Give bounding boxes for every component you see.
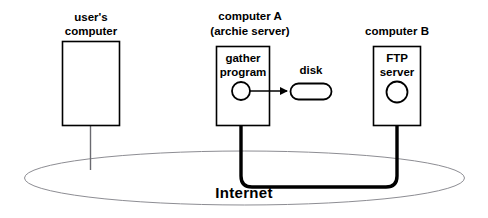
computer-b-label-line1: computer B xyxy=(365,25,429,37)
computer-a-label-line2: (archie server) xyxy=(210,25,289,37)
ftp-server-label-line1: FTP xyxy=(386,52,408,64)
disk-shape xyxy=(291,84,332,100)
users-computer-label-line1: user's xyxy=(74,11,107,23)
disk-label: disk xyxy=(299,64,323,76)
gather-program-label-line2: program xyxy=(220,66,267,78)
gather-program-circle xyxy=(232,82,250,100)
computer-a-label-line1: computer A xyxy=(218,10,281,22)
users-computer-box xyxy=(63,42,120,126)
ftp-server-label-line2: server xyxy=(380,66,415,78)
users-computer-label-line2: computer xyxy=(65,25,118,37)
network-diagram: user's computer computer A (archie serve… xyxy=(0,0,488,218)
gather-program-label-line1: gather xyxy=(225,52,261,64)
diagram-canvas: user's computer computer A (archie serve… xyxy=(0,0,488,218)
gather-to-disk-arrow-head xyxy=(280,87,288,95)
ftp-server-circle xyxy=(387,82,408,103)
internet-label: Internet xyxy=(215,184,272,201)
